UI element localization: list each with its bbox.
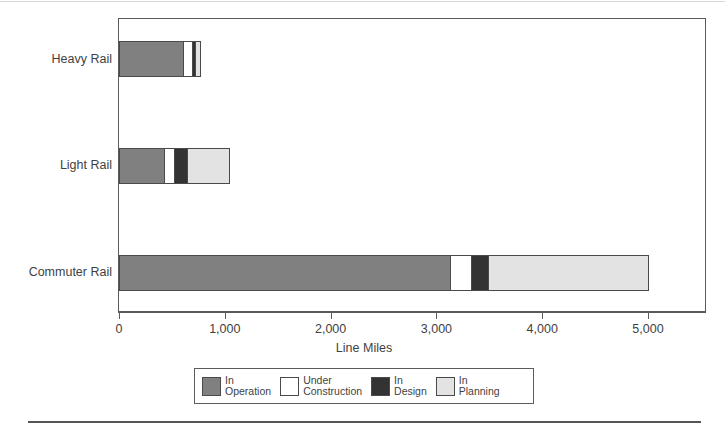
legend-label-line2: Operation [225, 385, 271, 397]
legend-item-under-construction[interactable]: UnderConstruction [280, 375, 362, 397]
x-axis-ticklabel-4: 4,000 [527, 322, 558, 336]
y-axis-label-commuter-rail: Commuter Rail [6, 265, 112, 279]
x-axis-tick-0 [119, 313, 120, 319]
y-axis-label-heavy-rail: Heavy Rail [6, 52, 112, 66]
footer-divider [28, 421, 701, 423]
x-axis-ticklabel-1: 1,000 [209, 322, 240, 336]
x-axis-ticklabel-3: 3,000 [421, 322, 452, 336]
x-axis-title: Line Miles [0, 341, 725, 355]
legend-label-line2: Construction [303, 385, 362, 397]
legend-label-in-planning: InPlanning [459, 375, 500, 397]
bar-segment-in-operation[interactable] [119, 148, 165, 184]
bar-segment-in-planning[interactable] [187, 148, 230, 184]
bar-segment-in-planning[interactable] [195, 41, 201, 77]
x-axis-tick-4 [542, 313, 543, 319]
bar-segment-in-operation[interactable] [119, 41, 184, 77]
legend-swatch-in-design [371, 377, 390, 396]
bar-row-light-rail [119, 148, 231, 184]
legend-label-in-design: InDesign [394, 375, 427, 397]
legend-item-in-design[interactable]: InDesign [371, 375, 427, 397]
bar-segment-in-design[interactable] [471, 255, 489, 291]
x-axis-ticklabel-5: 5,000 [632, 322, 663, 336]
legend-swatch-under-construction [280, 377, 299, 396]
legend-swatch-in-operation [202, 377, 221, 396]
x-axis-tick-1 [225, 313, 226, 319]
stacked-bar-commuter-rail [119, 255, 649, 291]
stacked-bar-heavy-rail [119, 41, 201, 77]
legend-swatch-in-planning [436, 377, 455, 396]
x-axis-tick-2 [331, 313, 332, 319]
chart-legend: InOperation UnderConstruction InDesign I… [194, 368, 534, 404]
y-axis-label-light-rail: Light Rail [6, 158, 112, 172]
bar-segment-under-construction[interactable] [450, 255, 472, 291]
bar-segment-in-operation[interactable] [119, 255, 451, 291]
legend-label-in-operation: InOperation [225, 375, 271, 397]
bar-row-heavy-rail [119, 41, 202, 77]
legend-label-under-construction: UnderConstruction [303, 375, 362, 397]
legend-label-line2: Design [394, 385, 427, 397]
bar-segment-in-design[interactable] [174, 148, 188, 184]
x-axis-tick-5 [648, 313, 649, 319]
legend-label-line2: Planning [459, 385, 500, 397]
x-axis-title-text: Line Miles [336, 341, 392, 355]
bar-row-commuter-rail [119, 255, 650, 291]
bar-segment-in-planning[interactable] [488, 255, 649, 291]
page-top-rule [0, 1, 725, 2]
legend-item-in-planning[interactable]: InPlanning [436, 375, 500, 397]
stacked-bar-light-rail [119, 148, 230, 184]
chart-page: Heavy Rail Light Rail Commuter Rail [0, 0, 725, 434]
x-axis-ticklabel-0: 0 [116, 322, 123, 336]
legend-item-in-operation[interactable]: InOperation [202, 375, 271, 397]
x-axis-tick-3 [436, 313, 437, 319]
x-axis-ticklabel-2: 2,000 [315, 322, 346, 336]
x-axis-line [118, 312, 706, 313]
